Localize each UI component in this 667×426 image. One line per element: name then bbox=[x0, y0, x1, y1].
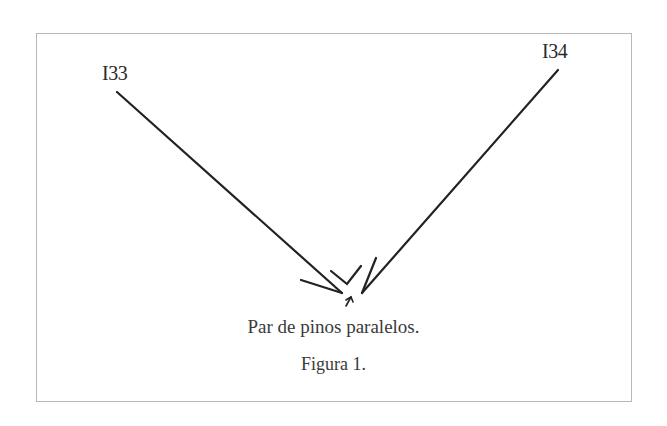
figure-number: Figura 1. bbox=[0, 354, 667, 375]
pin-label-133: I33 bbox=[102, 62, 127, 85]
arrow-line-134 bbox=[362, 70, 558, 293]
arrowhead-134-barb bbox=[362, 258, 376, 293]
figure-caption: Par de pinos paralelos. bbox=[0, 316, 667, 338]
pin-label-134: I34 bbox=[542, 40, 567, 63]
arrow-line-133 bbox=[117, 92, 342, 293]
center-v-mark bbox=[331, 266, 361, 284]
